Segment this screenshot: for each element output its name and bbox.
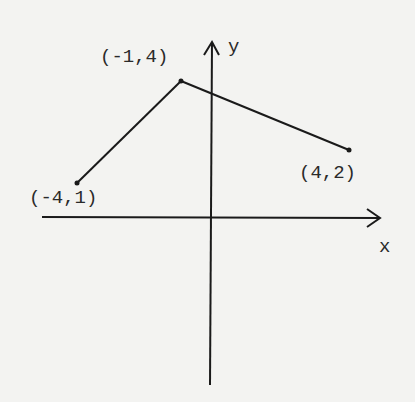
coordinate-plane: (-1,4) y (-4,1) (4,2) x [0, 0, 415, 402]
segment-a-b [77, 81, 181, 183]
point-a-label: (-4,1) [29, 187, 97, 209]
point-c [347, 148, 352, 153]
segment-b-c [181, 81, 349, 150]
x-axis-label: x [379, 236, 390, 258]
point-c-label: (4,2) [299, 162, 356, 184]
point-b [179, 79, 184, 84]
y-axis-label: y [228, 36, 239, 58]
point-b-label: (-1,4) [100, 46, 168, 68]
point-a [75, 181, 80, 186]
